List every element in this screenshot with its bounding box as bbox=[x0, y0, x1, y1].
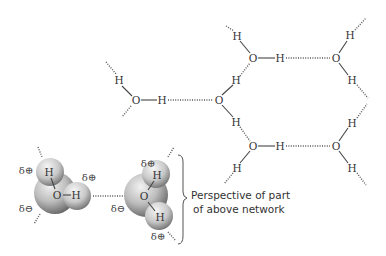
atom-h: H bbox=[152, 169, 161, 181]
atom-h: H bbox=[275, 140, 284, 152]
atom-h: H bbox=[155, 211, 164, 223]
atom-o: O bbox=[215, 94, 224, 106]
atom-h: H bbox=[114, 74, 123, 86]
delta-minus-label: δ⊖ bbox=[19, 203, 33, 214]
atom-h: H bbox=[232, 162, 241, 174]
atom-o: O bbox=[332, 52, 341, 64]
atom-h: H bbox=[231, 116, 240, 128]
atom-h: H bbox=[347, 162, 356, 174]
delta-plus-label: δ⊕ bbox=[82, 172, 96, 183]
water-network-diagram: H O H O H H H O H O H H O H H O H H H O … bbox=[0, 0, 386, 256]
covalent-bonds bbox=[122, 41, 348, 163]
atom-o: O bbox=[132, 94, 141, 106]
atom-o: O bbox=[53, 189, 62, 201]
brace bbox=[178, 155, 187, 244]
atom-h: H bbox=[347, 117, 356, 129]
delta-plus-label: δ⊕ bbox=[19, 165, 33, 176]
caption-line-1: Perspective of part bbox=[191, 189, 290, 201]
atom-o: O bbox=[332, 140, 341, 152]
space-filling-molecule-2: H O H δ⊕ δ⊖ δ⊕ bbox=[111, 147, 176, 242]
atom-o: O bbox=[249, 140, 258, 152]
atom-o: O bbox=[249, 52, 258, 64]
atom-o: O bbox=[140, 190, 149, 202]
atom-h: H bbox=[157, 94, 166, 106]
delta-plus-label: δ⊕ bbox=[141, 158, 155, 169]
delta-minus-label: δ⊖ bbox=[111, 203, 125, 214]
atom-h: H bbox=[231, 74, 240, 86]
atom-h: H bbox=[347, 74, 356, 86]
delta-plus-label: δ⊕ bbox=[151, 231, 165, 242]
atom-h: H bbox=[44, 166, 53, 178]
space-filling-molecule-1: H O H δ⊕ δ⊕ δ⊖ bbox=[19, 147, 125, 224]
network-atoms: H O H O H H H O H O H H O H H O H H bbox=[114, 29, 356, 174]
atom-h: H bbox=[275, 52, 284, 64]
caption-line-2: of above network bbox=[193, 203, 286, 215]
atom-h: H bbox=[71, 189, 80, 201]
atom-h: H bbox=[345, 29, 354, 41]
atom-h: H bbox=[232, 30, 241, 42]
